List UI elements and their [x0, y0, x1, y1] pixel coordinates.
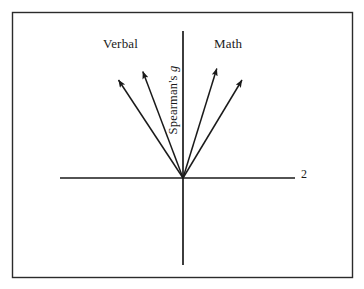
vector-math-outer — [183, 80, 242, 178]
vector-diagram-canvas — [0, 0, 364, 289]
vector-label-verbal: Verbal — [103, 37, 138, 50]
vector-label-math: Math — [214, 37, 242, 50]
y-axis-label-wrapper: Spearman's g — [164, 52, 182, 148]
y-axis-label-prefix: Spearman' — [166, 80, 180, 134]
y-axis-label-g: g — [166, 66, 180, 72]
y-axis-label: Spearman's g — [167, 66, 180, 135]
figure-root: Verbal Math 2 Spearman's g — [0, 0, 364, 289]
x-axis-label: 2 — [301, 168, 307, 180]
vector-math-inner — [183, 69, 217, 179]
y-axis-label-suffix: s — [166, 72, 180, 80]
